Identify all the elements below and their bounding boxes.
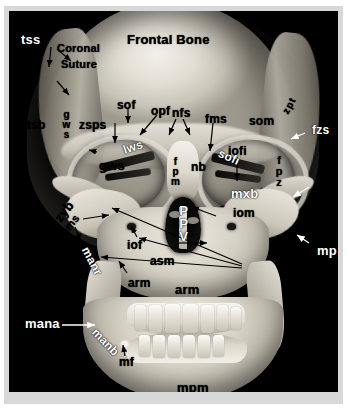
tooth <box>217 305 228 331</box>
tooth <box>149 305 162 333</box>
label-mf: mf <box>119 356 134 368</box>
label-zsps: zsps <box>79 119 106 131</box>
label-nfs: nfs <box>172 107 191 119</box>
label-fpz: fpz <box>273 154 284 187</box>
label-asm: asm <box>150 255 175 267</box>
tooth <box>139 335 150 357</box>
tooth <box>135 305 146 331</box>
tooth <box>153 335 165 358</box>
label-manb: manb <box>90 326 121 358</box>
label-iofi: iofi <box>228 145 247 157</box>
label-arm-center: arm <box>175 283 199 296</box>
label-mp: mp <box>317 244 337 257</box>
right-zygomatic-arch <box>253 170 317 209</box>
mental-foramen <box>121 341 128 347</box>
label-lws: lws <box>122 138 145 156</box>
tooth <box>165 304 180 333</box>
maxillary-teeth <box>127 303 245 335</box>
mandibular-teeth <box>125 333 247 363</box>
label-fms: fms <box>205 113 227 125</box>
tooth <box>183 304 198 333</box>
tooth <box>231 307 241 330</box>
right-inferior-orbital-fissure <box>215 170 262 183</box>
label-manr: manr <box>80 245 105 277</box>
tooth <box>168 335 180 358</box>
label-frontal-bone: Frontal Bone <box>127 33 210 46</box>
label-nb: nb <box>191 161 206 173</box>
tooth <box>213 335 224 357</box>
label-fp: fp <box>36 208 48 234</box>
label-arm-left: arm <box>128 277 151 289</box>
label-gws-left: gws <box>61 109 71 139</box>
tooth <box>201 305 214 333</box>
label-mana: mana <box>25 317 60 330</box>
right-infraorbital-foramen <box>227 223 236 230</box>
left-zygomatic-arch <box>49 170 113 209</box>
label-coronal-suture-line2: Suture <box>61 59 97 70</box>
label-tsb: tsb <box>27 119 46 131</box>
label-za: za <box>316 181 330 194</box>
label-gws: gws <box>99 159 125 172</box>
label-ppv: PPV <box>177 203 190 242</box>
label-fpm: fpm <box>170 156 180 186</box>
label-iof: iof <box>127 239 142 251</box>
label-coronal-suture-line1: Coronal <box>57 43 100 54</box>
label-iom: iom <box>233 207 255 219</box>
left-orbit <box>69 136 168 216</box>
tooth <box>198 335 210 358</box>
label-opf: opf <box>151 105 170 117</box>
label-fzs: fzs <box>312 124 329 136</box>
label-sof: sof <box>117 99 136 111</box>
annotation-leader-lines <box>9 11 338 392</box>
label-mxb-lower: mxb <box>278 261 305 274</box>
left-infraorbital-foramen <box>127 223 136 230</box>
label-zpt: zpt <box>281 96 298 116</box>
label-som: som <box>249 115 274 127</box>
label-tss: tss <box>21 33 40 46</box>
label-mpm: mpm <box>177 381 209 392</box>
ct-image-canvas: tss Coronal Suture Frontal Bone tsb gws … <box>9 11 338 392</box>
figure-page: tss Coronal Suture Frontal Bone tsb gws … <box>0 0 347 415</box>
tooth <box>183 335 195 358</box>
label-mxb-upper: mxb <box>231 187 258 200</box>
